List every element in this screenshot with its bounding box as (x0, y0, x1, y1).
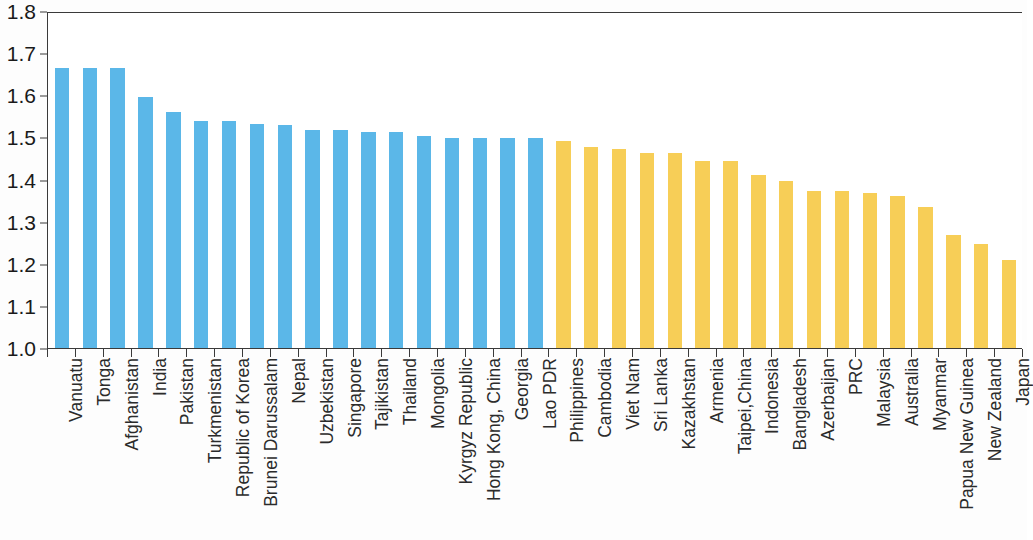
x-axis-tick-mark (799, 349, 800, 357)
bar (946, 235, 960, 348)
bar (863, 193, 877, 348)
x-axis-tick-label: Malaysia (876, 358, 894, 427)
x-axis-tick-label: Uzbekistan (319, 358, 337, 445)
bar (110, 68, 124, 348)
y-axis-tick-mark (40, 306, 47, 307)
x-axis-tick-label: Tajikistan (374, 358, 392, 430)
x-axis-tick-mark (660, 349, 661, 357)
bar (974, 244, 988, 348)
x-axis-tick-mark (716, 349, 717, 357)
x-axis-tick-label: Turkmenistan (207, 358, 225, 463)
x-axis-tick-label: Bangladesh (792, 358, 810, 450)
x-axis-tick-label: Japan (1015, 358, 1033, 406)
x-axis-tick-label: Nepal (291, 358, 309, 404)
y-axis-tick-mark (40, 349, 47, 350)
bar (1002, 260, 1016, 348)
x-axis-tick-mark (966, 349, 967, 357)
x-axis-tick-mark (214, 349, 215, 357)
x-axis-tick-label: India (152, 358, 170, 396)
y-axis-tick-label: 1.3 (7, 211, 36, 235)
x-axis-tick-mark (409, 349, 410, 357)
x-axis-tick-mark (326, 349, 327, 357)
y-axis-tick-mark (40, 96, 47, 97)
x-axis-tick-mark (47, 349, 48, 357)
bar (417, 136, 431, 348)
x-axis-tick-label: Georgia (514, 358, 532, 420)
y-axis-tick-label: 1.2 (7, 253, 36, 277)
x-axis-tick-mark (158, 349, 159, 357)
x-axis-tick-mark (103, 349, 104, 357)
x-axis-tick-label: Papua New Guinea (959, 358, 977, 510)
bar (668, 153, 682, 348)
bar (695, 161, 709, 348)
x-axis-tick-mark (632, 349, 633, 357)
bar (556, 141, 570, 348)
x-axis-tick-label: Kazakhstan (681, 358, 699, 449)
bars-layer (48, 13, 1022, 348)
x-axis-tick-mark (493, 349, 494, 357)
bar (612, 149, 626, 348)
y-axis-tick-mark (40, 54, 47, 55)
x-axis-tick-mark (938, 349, 939, 357)
x-axis-tick-mark (855, 349, 856, 357)
bar (166, 112, 180, 348)
y-axis-tick-mark (40, 12, 47, 13)
bar (723, 161, 737, 348)
x-axis-tick-label: Sri Lanka (653, 358, 671, 432)
y-axis-tick-label: 1.0 (7, 337, 36, 361)
x-axis-tick-label: Armenia (709, 358, 727, 423)
x-axis-tick-label: Hong Kong, China (486, 358, 504, 501)
x-axis-tick-mark (353, 349, 354, 357)
x-axis-tick-mark (521, 349, 522, 357)
bar (640, 153, 654, 348)
x-axis-tick-label: Brunei Darussalam (263, 358, 281, 507)
x-axis-tick-mark (604, 349, 605, 357)
bar (779, 181, 793, 348)
bar (83, 68, 97, 348)
x-axis-tick-label: PRC (848, 358, 866, 395)
x-axis-tick-label: Myanmar (932, 358, 950, 431)
x-axis-labels: VanuatuTongaAfghanistanIndiaPakistanTurk… (47, 358, 1022, 540)
x-axis-tick-mark (576, 349, 577, 357)
x-axis-tick-mark (381, 349, 382, 357)
x-axis-tick-mark (771, 349, 772, 357)
x-axis-tick-label: Kyrgyz Republic (458, 358, 476, 484)
bar (389, 132, 403, 348)
bar (500, 138, 514, 348)
x-axis-tick-label: Thailand (402, 358, 420, 425)
bar (305, 130, 319, 348)
x-axis-tick-mark (1022, 349, 1023, 357)
bar (835, 191, 849, 348)
x-axis-tick-label: Mongolia (430, 358, 448, 429)
x-axis-tick-mark (994, 349, 995, 357)
bar (55, 68, 69, 348)
x-axis-tick-mark (883, 349, 884, 357)
y-axis-tick-label: 1.4 (7, 169, 36, 193)
x-axis-tick-mark (437, 349, 438, 357)
y-axis-tick-mark (40, 138, 47, 139)
bar (584, 147, 598, 348)
x-axis-tick-mark (548, 349, 549, 357)
x-axis-tick-label: Republic of Korea (235, 358, 253, 497)
bar (250, 124, 264, 348)
x-axis-tick-label: Lao PDR (542, 358, 560, 429)
bar (751, 175, 765, 348)
y-axis-tick-label: 1.7 (7, 42, 36, 66)
bar (194, 121, 208, 348)
y-axis-tick-label: 1.8 (7, 0, 36, 24)
bar (278, 125, 292, 348)
y-axis-tick-label: 1.6 (7, 84, 36, 108)
x-axis-tick-label: Tonga (96, 358, 114, 406)
x-axis-tick-label: Australia (904, 358, 922, 426)
bar (528, 138, 542, 348)
y-axis-tick-label: 1.1 (7, 295, 36, 319)
x-axis-tick-mark (827, 349, 828, 357)
x-axis-tick-label: Indonesia (764, 358, 782, 434)
bar (445, 138, 459, 348)
y-axis-tick-mark (40, 264, 47, 265)
x-axis-tick-mark (186, 349, 187, 357)
bar (333, 130, 347, 348)
x-axis-tick-label: Cambodia (597, 358, 615, 438)
plot-area (47, 12, 1022, 349)
